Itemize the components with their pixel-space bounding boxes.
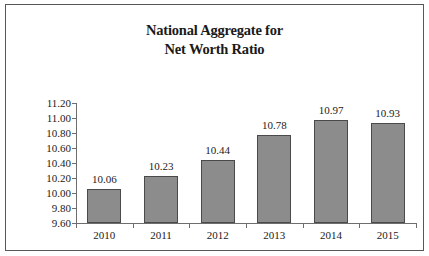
- x-axis-category-label: 2010: [93, 230, 115, 241]
- x-axis-tick: [416, 223, 417, 228]
- bar-value-label: 10.06: [92, 174, 117, 185]
- y-axis-tick: [72, 193, 76, 194]
- y-axis-tick-label: 10.60: [46, 143, 71, 154]
- y-axis-tick: [72, 208, 76, 209]
- x-axis-category-label: 2014: [320, 230, 342, 241]
- bar-value-label: 10.23: [149, 161, 174, 172]
- x-axis-category-label: 2015: [377, 230, 399, 241]
- bar: [257, 135, 291, 224]
- x-axis-tick: [189, 223, 190, 228]
- x-axis-tick: [303, 223, 304, 228]
- x-axis-category-label: 2012: [207, 230, 229, 241]
- y-axis-tick: [72, 103, 76, 104]
- bar-value-label: 10.93: [375, 108, 400, 119]
- y-axis-tick: [72, 178, 76, 179]
- y-axis-tick: [72, 148, 76, 149]
- y-axis-tick: [72, 163, 76, 164]
- x-axis-tick: [76, 223, 77, 228]
- x-axis-category-label: 2013: [263, 230, 285, 241]
- bar-value-label: 10.97: [319, 105, 344, 116]
- y-axis-tick-label: 10.00: [46, 188, 71, 199]
- x-axis-tick: [359, 223, 360, 228]
- x-axis-tick: [133, 223, 134, 228]
- chart-title: National Aggregate for Net Worth Ratio: [6, 21, 423, 59]
- y-axis-tick-label: 10.20: [46, 173, 71, 184]
- bar-value-label: 10.78: [262, 120, 287, 131]
- chart-title-line-2: Net Worth Ratio: [6, 40, 423, 59]
- y-axis-line: [76, 103, 77, 223]
- bar: [201, 160, 235, 223]
- chart-figure: National Aggregate for Net Worth Ratio 1…: [0, 0, 429, 256]
- y-axis-tick-label: 10.40: [46, 158, 71, 169]
- bar: [144, 176, 178, 223]
- x-axis-category-label: 2011: [150, 230, 172, 241]
- plot-area: 11.2011.0010.8010.6010.4010.2010.009.809…: [76, 103, 416, 223]
- bar: [87, 189, 121, 224]
- chart-border: National Aggregate for Net Worth Ratio 1…: [5, 4, 424, 251]
- bar: [371, 123, 405, 223]
- y-axis-tick: [72, 133, 76, 134]
- chart-title-line-1: National Aggregate for: [6, 21, 423, 40]
- bar: [314, 120, 348, 223]
- y-axis-tick-label: 9.60: [52, 218, 71, 229]
- x-axis-tick: [246, 223, 247, 228]
- y-axis-tick-label: 11.00: [47, 113, 71, 124]
- y-axis-tick-label: 9.80: [52, 203, 71, 214]
- y-axis-tick-label: 10.80: [46, 128, 71, 139]
- bar-value-label: 10.44: [205, 145, 230, 156]
- y-axis-tick: [72, 118, 76, 119]
- y-axis-tick-label: 11.20: [47, 98, 71, 109]
